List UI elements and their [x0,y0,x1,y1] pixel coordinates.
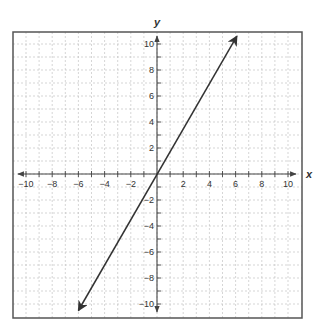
x-tick-label: −6 [73,179,83,189]
y-tick-label: −8 [144,273,154,283]
y-tick-label: −2 [144,195,154,205]
y-tick-label: 2 [149,143,154,153]
y-tick-label: 4 [149,117,154,127]
x-tick-label: 4 [207,179,212,189]
series-line [78,36,237,310]
y-tick-label: 8 [149,65,154,75]
x-tick-label: 10 [283,179,293,189]
y-tick-label: 10 [144,39,154,49]
y-tick-label: −10 [139,299,154,309]
x-tick-label: 8 [259,179,264,189]
y-axis-label: y [153,16,161,28]
y-tick-label: −6 [144,247,154,257]
x-tick-label: −10 [18,179,33,189]
y-tick-label: 6 [149,91,154,101]
x-axis-label: x [305,168,313,180]
x-tick-label: −8 [47,179,57,189]
x-tick-label: 6 [233,179,238,189]
x-tick-label: −2 [126,179,136,189]
series [78,36,237,310]
x-tick-label: −4 [99,179,109,189]
y-tick-label: −4 [144,221,154,231]
x-tick-label: 2 [181,179,186,189]
coordinate-plane: −10−8−6−4−2246810−10−8−6−4−2246810 x y [0,0,325,335]
